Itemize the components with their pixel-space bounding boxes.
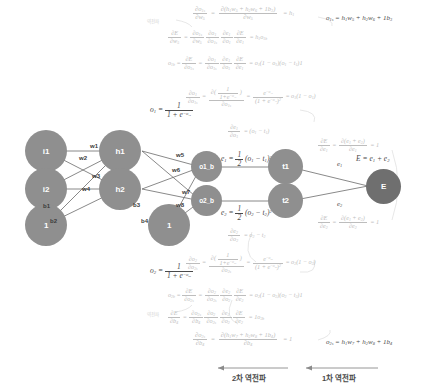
label-e1-edge: e1	[337, 160, 342, 168]
equation-dE-de1: ∂E∂e1 = ∂(e1 + e2)∂e1 = 1	[318, 138, 381, 153]
tag-backprop-top: 역전파	[147, 18, 159, 24]
node-E[interactable]: E	[366, 169, 401, 204]
equation-do2s-db4: ∂o2s∂b4 = ∂(h1w7 + h2w8 + 1b4)∂b4 = 1	[193, 332, 296, 347]
equation-e1: e1 = 12 (o1 − t1)2	[221, 151, 272, 168]
node-i1[interactable]: i1	[25, 130, 67, 172]
node-i1-label: i1	[43, 147, 49, 156]
equation-E-total: E = e1 + e2	[356, 154, 390, 163]
node-bias-hidden-label: 1	[167, 221, 171, 230]
phase-label-first-backprop: 1차 역전파	[322, 372, 356, 383]
phase-label-second-backprop: 2차 역전파	[232, 372, 266, 383]
weight-label-b2: b2	[50, 218, 57, 224]
weight-label-w4: w4	[82, 186, 90, 192]
node-bias-hidden[interactable]: 1	[148, 204, 190, 246]
equation-sigmoid-deriv-o2: ∂o2∂o2s = ∂( 11+e−o2s ) ∂o2s = e−o2s(1 +…	[186, 252, 317, 274]
weight-label-w1: w1	[90, 143, 98, 149]
node-h1-label: h1	[116, 147, 125, 156]
weight-label-b1: b1	[43, 203, 50, 209]
weight-label-b4: b4	[141, 218, 148, 224]
equation-e2: e2 = 12 (o2 − t2)2	[221, 205, 272, 222]
weight-label-w2: w2	[79, 155, 87, 161]
node-o2-label: o2_b	[199, 197, 213, 204]
weight-label-w8: w8	[176, 202, 184, 208]
node-i2-label: i2	[43, 185, 49, 194]
node-bias-input[interactable]: 1	[25, 204, 67, 246]
equation-o2-sigmoid: o2 = 11 + e−o2s	[150, 263, 193, 280]
node-h1[interactable]: h1	[99, 130, 141, 172]
weight-label-b3: b3	[133, 202, 140, 208]
equation-o1-sigmoid: o1 = 11 + e−o1s	[150, 102, 193, 119]
node-t1[interactable]: t1	[268, 149, 303, 184]
equation-dE-de2: ∂E∂e2 = ∂(e1 + e2)∂e2 = 1	[318, 215, 381, 230]
tag-backprop-bottom: 역전파	[147, 311, 159, 317]
weight-label-w3: w3	[92, 173, 100, 179]
equation-o2s-forward: o2s = h1w7 + h2w8 + 1b4	[326, 338, 392, 346]
node-h2-label: h2	[116, 185, 125, 194]
equation-sigmoid-deriv-o1: ∂o1∂o1s = ∂( 11+e−o1s ) ∂o1s = e−o1s(1 +…	[186, 86, 317, 108]
equation-dE-db4: ∂E∂b4 = ∂o2s∂b4 ∂o2∂o2s ∂e2∂o2 ∂E∂e2 = 1…	[168, 310, 266, 325]
weight-label-w5: w5	[176, 152, 184, 158]
node-bias-input-label: 1	[44, 221, 48, 230]
equation-dE-dw5: ∂E∂w5 = ∂o1s∂w5 ∂o1∂o1s ∂e1∂o1 ∂E∂e1 = h…	[168, 30, 269, 45]
node-E-label: E	[381, 182, 386, 191]
node-o1-label: o1_b	[199, 163, 213, 170]
node-t2[interactable]: t2	[268, 183, 303, 218]
equation-de1-do1: ∂e1∂o1 = (o1 − t1)	[228, 124, 271, 139]
weight-label-w6: w6	[172, 167, 180, 173]
node-o1[interactable]: o1_b	[191, 151, 222, 182]
weight-label-w7: w7	[182, 189, 190, 195]
equation-o1b-chain: o1b = ∂E∂o1s = ∂o1∂o1s ∂e1∂o1 ∂E∂e1 = o1…	[168, 56, 304, 71]
equation-o2b-chain: o2b = ∂E∂o2s = ∂o2∂o2s ∂e2∂o2 ∂E∂e2 = o2…	[168, 288, 304, 303]
node-t2-label: t2	[282, 196, 289, 205]
equation-o1s-forward: o1s = h1w5 + h2w6 + 1b3	[326, 14, 392, 22]
equation-do1s-dw5: ∂o1s∂w5 = ∂(h1w5 + h2w6 + 1b3)∂w5 = h1 ∂…	[193, 6, 298, 21]
equation-de2-do2: ∂e2∂o2 = o2 − t2	[228, 228, 267, 243]
node-o2[interactable]: o2_b	[191, 185, 222, 216]
label-e2-edge: e2	[337, 200, 342, 208]
node-t1-label: t1	[282, 162, 289, 171]
